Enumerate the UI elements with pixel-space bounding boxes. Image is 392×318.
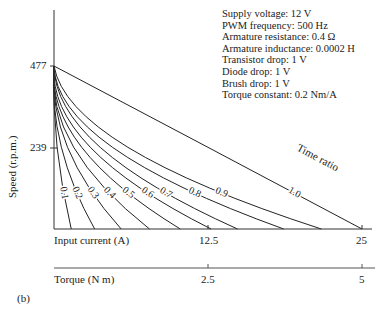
parameter-list: Supply voltage: 12 V PWM frequency: 500 … xyxy=(222,8,355,101)
panel-label: (b) xyxy=(17,292,30,304)
param-transistor-drop: Transistor drop: 1 V xyxy=(222,54,355,66)
param-brush-drop: Brush drop: 1 V xyxy=(222,78,355,90)
torque-tick-label-2-5: 2.5 xyxy=(201,273,215,285)
y-axis-label: Speed (r.p.m.) xyxy=(6,136,18,198)
curve-label: 0.7 xyxy=(158,184,174,200)
param-armature-inductance: Armature inductance: 0.0002 H xyxy=(222,43,355,55)
curve-label: 0.2 xyxy=(70,185,85,201)
ytick-label-239: 239 xyxy=(30,141,47,153)
torque-tick-label-5: 5 xyxy=(359,273,365,285)
param-pwm-frequency: PWM frequency: 500 Hz xyxy=(222,20,355,32)
curve-label: 0.4 xyxy=(102,184,119,201)
curve-label: 0.9 xyxy=(214,184,230,199)
param-torque-constant: Torque constant: 0.2 Nm/A xyxy=(222,89,355,101)
curve-label: 0.1 xyxy=(58,186,71,200)
param-armature-resistance: Armature resistance: 0.4 Ω xyxy=(222,31,355,43)
curve-label: 0.8 xyxy=(187,184,203,199)
curve-label: 1.0 xyxy=(287,184,303,200)
xtick-label-25: 25 xyxy=(356,234,367,246)
torque-axis-label: Torque (N m) xyxy=(54,273,114,285)
time-ratio-label: Time ratio xyxy=(295,141,341,173)
param-supply-voltage: Supply voltage: 12 V xyxy=(222,8,355,20)
x-axis-label: Input current (A) xyxy=(54,234,129,246)
param-diode-drop: Diode drop: 1 V xyxy=(222,66,355,78)
xtick-label-12-5: 12.5 xyxy=(199,234,218,246)
curve-time-ratio-0-5 xyxy=(54,66,181,229)
ytick-label-477: 477 xyxy=(30,59,47,71)
